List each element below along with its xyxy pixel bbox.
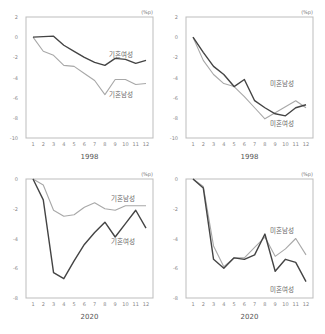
x-tick-label: 11: [133, 301, 139, 307]
line-chart: (%p)20-2-4-6-8-101234567891011121998미혼남성…: [160, 0, 325, 167]
y-tick-label: -6: [173, 265, 178, 271]
x-tick-label: 4: [62, 301, 65, 307]
series-line: [33, 179, 146, 279]
y-tick-label: 0: [175, 34, 178, 40]
x-tick-label: 5: [72, 301, 75, 307]
x-tick-label: 1: [31, 141, 34, 147]
x-tick-label: 8: [263, 141, 266, 147]
x-tick-label: 4: [222, 141, 225, 147]
unit-label: (%p): [141, 9, 153, 16]
x-tick-label: 6: [243, 141, 246, 147]
series-label: 미혼남성: [270, 79, 294, 88]
series-label: 미혼남성: [270, 226, 294, 235]
x-tick-label: 5: [232, 141, 235, 147]
x-tick-label: 4: [222, 301, 225, 307]
x-tick-label: 3: [52, 141, 55, 147]
x-tick-label: 2: [202, 141, 205, 147]
x-tick-label: 7: [253, 141, 256, 147]
x-tick-label: 10: [282, 141, 288, 147]
x-tick-label: 11: [293, 141, 299, 147]
x-tick-label: 10: [122, 301, 128, 307]
x-tick-label: 9: [274, 301, 277, 307]
x-tick-label: 6: [83, 301, 86, 307]
x-tick-label: 6: [83, 141, 86, 147]
chart-2020-married: (%p)0-2-4-6-81234567891011122020기혼남성기혼여성: [0, 165, 163, 334]
series-label: 기혼남성: [111, 194, 135, 203]
chart-1998-married: (%p)20-2-4-6-8-101234567891011121998기혼여성…: [0, 0, 163, 167]
unit-label: (%p): [301, 9, 313, 16]
y-tick-label: -8: [13, 295, 18, 301]
series-label: 미혼여성: [270, 285, 294, 294]
x-tick-label: 8: [103, 141, 106, 147]
x-tick-label: 3: [52, 301, 55, 307]
x-tick-label: 3: [212, 301, 215, 307]
unit-label: (%p): [141, 171, 153, 178]
y-tick-label: -2: [173, 54, 178, 60]
y-tick-label: 0: [175, 176, 178, 182]
series-label: 미혼여성: [270, 119, 294, 128]
x-axis-label: 2020: [241, 313, 259, 321]
x-tick-label: 2: [42, 301, 45, 307]
y-tick-label: -4: [173, 236, 178, 242]
x-tick-label: 8: [263, 301, 266, 307]
y-tick-label: 0: [15, 176, 18, 182]
x-tick-label: 2: [202, 301, 205, 307]
y-tick-label: -4: [13, 75, 18, 81]
x-axis-label: 1998: [241, 153, 259, 161]
x-tick-label: 12: [303, 141, 309, 147]
y-tick-label: -8: [13, 115, 18, 121]
y-tick-label: -10: [170, 135, 178, 141]
y-tick-label: -2: [173, 206, 178, 212]
x-tick-label: 12: [303, 301, 309, 307]
x-tick-label: 9: [274, 141, 277, 147]
y-tick-label: -2: [13, 54, 18, 60]
x-tick-label: 5: [72, 141, 75, 147]
x-tick-label: 1: [31, 301, 34, 307]
x-tick-label: 2: [42, 141, 45, 147]
x-tick-label: 12: [143, 141, 149, 147]
y-tick-label: -10: [10, 135, 18, 141]
line-chart: (%p)20-2-4-6-8-101234567891011121998기혼여성…: [0, 0, 163, 167]
y-tick-label: -6: [13, 95, 18, 101]
x-tick-label: 1: [191, 141, 194, 147]
x-tick-label: 10: [282, 301, 288, 307]
x-tick-label: 7: [253, 301, 256, 307]
x-tick-label: 7: [93, 301, 96, 307]
x-tick-label: 1: [191, 301, 194, 307]
line-chart: (%p)0-2-4-6-81234567891011122020기혼남성기혼여성: [0, 165, 163, 334]
y-tick-label: -6: [173, 95, 178, 101]
x-axis-label: 1998: [81, 153, 99, 161]
y-tick-label: -4: [13, 236, 18, 242]
y-tick-label: -8: [173, 115, 178, 121]
x-tick-label: 5: [232, 301, 235, 307]
x-tick-label: 6: [243, 301, 246, 307]
series-label: 기혼여성: [109, 50, 133, 59]
x-axis-label: 2020: [81, 313, 99, 321]
x-tick-label: 4: [62, 141, 65, 147]
y-tick-label: 0: [15, 34, 18, 40]
y-tick-label: 2: [15, 14, 18, 20]
line-chart: (%p)0-2-4-6-81234567891011122020미혼남성미혼여성: [160, 165, 325, 334]
chart-2020-unmarried: (%p)0-2-4-6-81234567891011122020미혼남성미혼여성: [160, 165, 325, 334]
x-tick-label: 7: [93, 141, 96, 147]
series-line: [33, 37, 146, 94]
x-tick-label: 9: [114, 141, 117, 147]
unit-label: (%p): [301, 171, 313, 178]
chart-1998-unmarried: (%p)20-2-4-6-8-101234567891011121998미혼남성…: [160, 0, 325, 167]
series-label: 기혼여성: [111, 237, 135, 246]
y-tick-label: -2: [13, 206, 18, 212]
y-tick-label: 2: [175, 14, 178, 20]
x-tick-label: 9: [114, 301, 117, 307]
x-tick-label: 8: [103, 301, 106, 307]
x-tick-label: 12: [143, 301, 149, 307]
x-tick-label: 3: [212, 141, 215, 147]
x-tick-label: 11: [133, 141, 139, 147]
series-line: [193, 179, 306, 267]
y-tick-label: -6: [13, 265, 18, 271]
series-line: [193, 37, 306, 119]
y-tick-label: -8: [173, 295, 178, 301]
x-tick-label: 10: [122, 141, 128, 147]
series-label: 기혼남성: [109, 90, 133, 99]
y-tick-label: -4: [173, 75, 178, 81]
x-tick-label: 11: [293, 301, 299, 307]
